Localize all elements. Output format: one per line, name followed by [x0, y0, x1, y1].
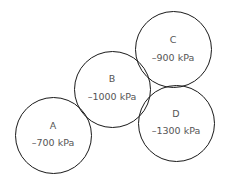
- cell-d-label: D: [131, 108, 221, 120]
- cell-c-circle: [135, 11, 212, 88]
- cell-d-circle: [138, 85, 215, 162]
- cell-a-label: A: [8, 120, 98, 132]
- cell-c-pressure: –900 kPa: [128, 52, 218, 64]
- cell-c-label: C: [128, 34, 218, 46]
- cell-a-pressure: –700 kPa: [8, 137, 98, 149]
- cell-d-pressure: –1300 kPa: [131, 125, 221, 137]
